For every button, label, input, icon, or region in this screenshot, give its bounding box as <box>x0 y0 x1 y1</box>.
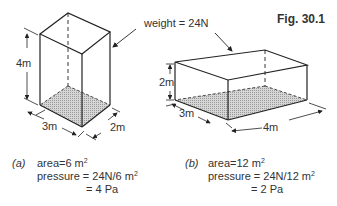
calc-a-area-text: area=6 m <box>37 157 84 169</box>
box-b <box>175 50 307 120</box>
weight-arrow-b <box>215 33 232 51</box>
calc-a-pressure-exp: 2 <box>134 170 138 177</box>
box-a-depth-label: 2m <box>110 121 125 133</box>
box-b-depth-label: 4m <box>263 121 278 133</box>
box-a <box>40 13 110 127</box>
weight-arrow-a <box>113 29 136 47</box>
figure-title: Fig. 30.1 <box>277 12 325 26</box>
calc-b-area: area=12 m2 <box>208 157 265 170</box>
calc-a-result: = 4 Pa <box>86 183 118 196</box>
calc-b-result: = 2 Pa <box>251 183 283 196</box>
weight-label: weight = 24N <box>143 17 209 29</box>
calc-b-pressure-exp: 2 <box>311 170 315 177</box>
box-a-dimensions <box>24 28 120 140</box>
calc-a-pressure: pressure = 24N/6 m2 <box>37 170 138 183</box>
calc-b-pressure-text: pressure = 24N/12 m <box>208 170 311 182</box>
box-b-base-shaded <box>175 86 307 120</box>
calc-b-area-text: area=12 m <box>208 157 261 169</box>
box-b-height-label: 2m <box>159 76 174 88</box>
calc-a-area: area=6 m2 <box>37 157 88 170</box>
box-b-width-label: 3m <box>179 107 194 119</box>
calc-a-pressure-text: pressure = 24N/6 m <box>37 170 134 182</box>
calc-a-label: (a) <box>12 157 25 170</box>
calc-b-label: (b) <box>185 157 198 170</box>
box-a-height-label: 4m <box>16 57 31 69</box>
calc-b-area-exp: 2 <box>261 157 265 164</box>
box-a-width-label: 3m <box>42 120 57 132</box>
calc-b-pressure: pressure = 24N/12 m2 <box>208 170 315 183</box>
calc-a-area-exp: 2 <box>84 157 88 164</box>
